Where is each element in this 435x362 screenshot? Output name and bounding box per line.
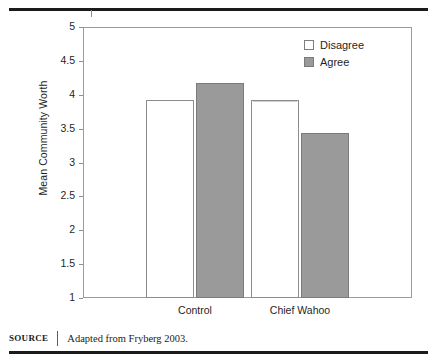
y-axis-tick-label: 5 — [69, 20, 75, 32]
x-axis-label-control: Control — [178, 304, 212, 316]
bar-control-agree — [196, 83, 244, 298]
legend-item-disagree: Disagree — [304, 36, 404, 53]
y-axis-tick-label: 4 — [69, 88, 75, 100]
chart-legend: DisagreeAgree — [304, 36, 404, 70]
y-axis-tick-mark — [79, 298, 83, 299]
legend-label-disagree: Disagree — [320, 39, 364, 51]
bar-chief-wahoo-agree — [301, 133, 349, 298]
y-axis-tick-label: 2.5 — [60, 189, 75, 201]
source-text: Adapted from Fryberg 2003. — [58, 333, 188, 344]
y-axis-tick-label: 4.5 — [60, 54, 75, 66]
source-label: SOURCE — [9, 333, 57, 343]
y-axis-ticks: 54.543.532.521.51 — [0, 27, 83, 298]
y-axis-tick-label: 3.5 — [60, 122, 75, 134]
legend-swatch-agree — [304, 57, 314, 67]
y-axis-tick-label: 2 — [69, 223, 75, 235]
legend-item-agree: Agree — [304, 53, 404, 70]
legend-label-agree: Agree — [320, 56, 349, 68]
x-axis-label-chief-wahoo: Chief Wahoo — [270, 304, 330, 316]
source-note: SOURCE Adapted from Fryberg 2003. — [9, 329, 188, 347]
top-rule — [9, 8, 428, 11]
bar-chart-figure: Mean Community Worth 54.543.532.521.51 C… — [0, 14, 435, 324]
bottom-rule — [9, 351, 428, 354]
y-axis-tick-label: 3 — [69, 156, 75, 168]
legend-swatch-disagree — [304, 40, 314, 50]
x-axis-labels: ControlChief Wahoo — [83, 304, 412, 324]
bar-top-tint — [253, 101, 297, 102]
bar-chief-wahoo-disagree — [251, 100, 299, 299]
bar-control-disagree — [146, 100, 194, 299]
y-axis-tick-label: 1.5 — [60, 257, 75, 269]
y-axis-tick-label: 1 — [69, 291, 75, 303]
